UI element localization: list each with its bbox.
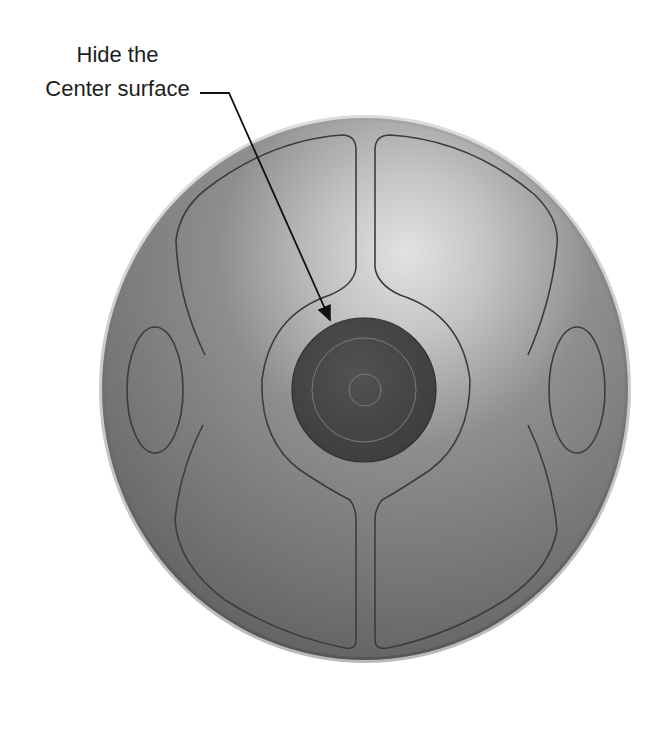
cad-figure: Hide the Center surface bbox=[0, 0, 668, 733]
center-surface bbox=[292, 318, 436, 462]
model-render bbox=[0, 0, 668, 733]
